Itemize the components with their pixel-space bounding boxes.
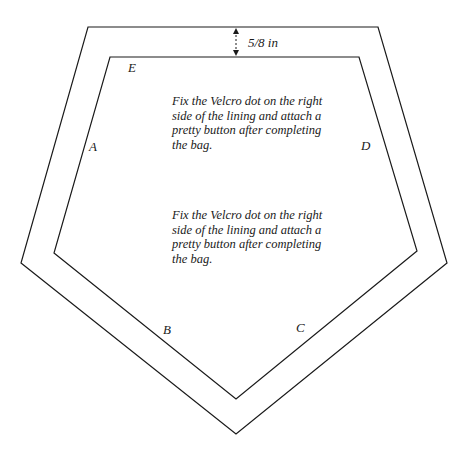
vertex-label-c: C [296,321,305,334]
vertex-label-b: B [163,323,171,336]
vertex-label-e: E [128,61,136,74]
seam-allowance-label: 5/8 in [248,36,278,49]
seam-allowance-arrow [233,28,239,56]
vertex-label-a: A [89,140,97,153]
instruction-note-top: Fix the Velcro dot on the right side of … [172,94,332,152]
instruction-note-bottom: Fix the Velcro dot on the right side of … [172,208,332,266]
vertex-label-d: D [361,139,370,152]
